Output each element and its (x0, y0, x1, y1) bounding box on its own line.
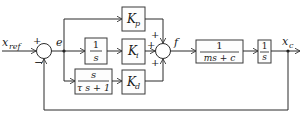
sum1-minus-sign: − (34, 56, 43, 69)
svg-text:s: s (93, 52, 98, 63)
svg-text:s: s (91, 69, 96, 80)
svg-text:i: i (136, 51, 139, 60)
svg-text:1: 1 (262, 41, 268, 51)
svg-text:p: p (135, 19, 140, 28)
svg-text:c: c (289, 41, 294, 50)
svg-text:x: x (2, 36, 9, 49)
svg-text:d: d (135, 82, 140, 91)
integrator-block: 1 s (85, 38, 107, 64)
sum2-plus-integral: + (147, 39, 155, 50)
plant-block: 1 ms + c (196, 40, 243, 63)
sum2-plus-derivative: + (151, 57, 159, 68)
svg-text:s: s (262, 52, 267, 62)
error-label: e (56, 36, 63, 49)
sum1-plus-sign: + (33, 35, 41, 46)
svg-text:x: x (282, 35, 289, 48)
reference-input-label: x ref (2, 36, 23, 51)
svg-text:ms + c: ms + c (204, 53, 235, 63)
svg-text:τ s + 1: τ s + 1 (77, 82, 110, 93)
svg-text:1: 1 (216, 40, 222, 51)
plant-integrator-block: 1 s (258, 40, 271, 63)
output-label: x c (282, 35, 294, 50)
ki-block: K i (122, 39, 145, 64)
block-diagram: x ref + − e K p 1 s K i s τ s + 1 (0, 0, 305, 121)
svg-text:ref: ref (9, 42, 23, 51)
kp-block: K p (122, 7, 145, 31)
derivative-filter-block: s τ s + 1 (75, 69, 112, 94)
force-label: f (173, 36, 180, 49)
svg-text:1: 1 (93, 39, 99, 50)
kd-block: K d (122, 70, 145, 94)
